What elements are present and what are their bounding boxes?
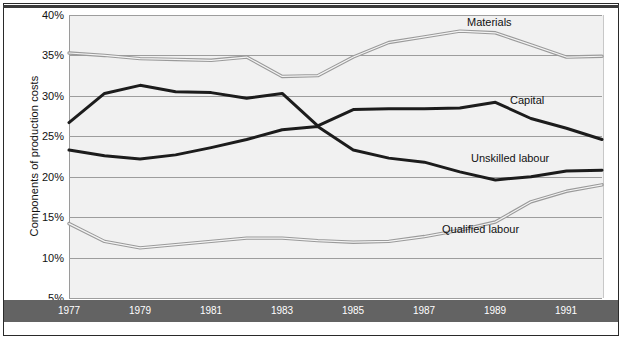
series-line-core <box>69 185 602 248</box>
chart-figure: 40%35%30%25%20%15%10%5% Components of pr… <box>0 0 622 339</box>
series-label-qualified-labour: Qualified labour <box>442 223 519 235</box>
series-label-unskilled-labour: Unskilled labour <box>471 152 549 164</box>
chart-lines <box>0 0 622 339</box>
series-line-core <box>69 31 602 76</box>
series-label-capital: Capital <box>510 94 544 106</box>
series-label-materials: Materials <box>467 16 512 28</box>
series-line-materials <box>69 31 602 76</box>
series-line-qualified-labour <box>69 185 602 248</box>
